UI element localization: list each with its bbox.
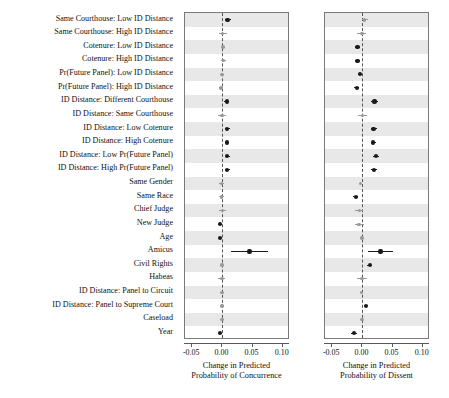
variable-label: Year [158, 328, 173, 336]
estimate-point [361, 114, 364, 117]
variable-label: Chief Judge [134, 205, 173, 213]
row-band [185, 313, 288, 327]
estimate-point [368, 263, 372, 267]
row-band [325, 313, 428, 327]
row-band [185, 68, 288, 82]
variable-label: Same Gender [129, 178, 173, 186]
estimate-point [357, 223, 360, 226]
estimate-point [221, 32, 224, 35]
estimate-point [371, 127, 375, 131]
x-axis-tick [422, 343, 423, 347]
estimate-point [220, 73, 223, 76]
row-band [185, 40, 288, 54]
row-band [185, 231, 288, 245]
variable-label: Cotenure: Low ID Distance [83, 42, 173, 50]
variable-label: ID Distance: Panel to Circuit [79, 287, 173, 295]
variable-label: ID Distance: Panel to Supreme Court [52, 301, 173, 309]
row-band [185, 149, 288, 163]
variable-label: ID Distance: Low Pr(Future Panel) [59, 151, 173, 159]
row-band [185, 177, 288, 191]
variable-label: ID Distance: Same Courthouse [73, 110, 173, 118]
estimate-point [363, 18, 366, 21]
row-band [325, 286, 428, 300]
variable-label: Same Courthouse: Low ID Distance [56, 15, 173, 23]
estimate-point [218, 331, 222, 335]
plot-panel-dissent [324, 12, 429, 339]
x-axis-tick-label: 0.10 [404, 349, 440, 357]
estimate-point [371, 140, 375, 144]
row-band [325, 204, 428, 218]
estimate-point [225, 127, 229, 131]
x-axis-line [184, 343, 289, 344]
x-axis-tick-label: 0.10 [264, 349, 300, 357]
estimate-point [355, 45, 359, 49]
estimate-point [360, 277, 363, 280]
row-band [185, 204, 288, 218]
estimate-point [355, 86, 359, 90]
x-axis-title-line2: Probability of Dissent [289, 371, 449, 381]
estimate-point [225, 99, 229, 103]
row-band [325, 258, 428, 272]
variable-label: Pr(Future Panel): High ID Distance [58, 83, 173, 91]
variable-label: Amicus [148, 246, 173, 254]
variable-label: New Judge [137, 219, 173, 227]
estimate-point [360, 32, 363, 35]
estimate-point [220, 195, 223, 198]
estimate-point [220, 291, 223, 294]
estimate-point [220, 263, 223, 266]
x-axis-title: Change in PredictedProbability of Dissen… [289, 361, 449, 381]
variable-label: Same Courthouse: High ID Distance [54, 28, 173, 36]
zero-reference-line [362, 13, 363, 338]
plot-panel-concurrence [184, 12, 289, 339]
row-band [185, 286, 288, 300]
variable-label: Caseload [143, 314, 173, 322]
variable-label: Pr(Future Panel): Low ID Distance [59, 69, 173, 77]
x-axis-title-line1: Change in Predicted [289, 361, 449, 371]
estimate-point [372, 99, 376, 103]
estimate-point [225, 18, 229, 22]
row-band [325, 13, 428, 27]
coefficient-plot-figure: Same Courthouse: Low ID DistanceSame Cou… [0, 0, 449, 398]
estimate-point [221, 45, 224, 48]
estimate-point [364, 304, 368, 308]
row-band [185, 122, 288, 136]
row-band [185, 13, 288, 27]
x-axis-tick [361, 343, 362, 347]
variable-label: ID Distance: Different Courthouse [61, 96, 173, 104]
estimate-point [225, 140, 229, 144]
estimate-point [352, 331, 356, 335]
estimate-point [220, 114, 223, 117]
x-axis-line [324, 343, 429, 344]
x-axis-tick [252, 343, 253, 347]
estimate-point [219, 86, 222, 89]
estimate-point [218, 222, 222, 226]
x-axis-tick [221, 343, 222, 347]
row-band [325, 40, 428, 54]
estimate-point [220, 318, 223, 321]
row-band [325, 177, 428, 191]
estimate-point [355, 59, 359, 63]
estimate-point [360, 318, 363, 321]
row-band [185, 95, 288, 109]
estimate-point [220, 277, 223, 280]
variable-label: Cotenure: High ID Distance [82, 55, 173, 63]
estimate-point [372, 168, 376, 172]
row-band [325, 68, 428, 82]
variable-label: Habeas [149, 273, 173, 281]
estimate-point [354, 195, 358, 199]
variable-label: Same Race [137, 192, 173, 200]
x-axis-tick [282, 343, 283, 347]
estimate-point [225, 168, 229, 172]
x-axis-tick [191, 343, 192, 347]
row-band [325, 231, 428, 245]
estimate-point [220, 304, 223, 307]
estimate-point [247, 249, 251, 253]
variable-label: Age [160, 233, 173, 241]
estimate-point [378, 249, 382, 253]
x-axis-tick [331, 343, 332, 347]
variable-label: ID Distance: High Cotenure [82, 137, 173, 145]
variable-label: ID Distance: High Pr(Future Panel) [58, 164, 173, 172]
row-band [185, 258, 288, 272]
estimate-point [360, 236, 363, 239]
variable-label: ID Distance: Low Cotenure [83, 124, 173, 132]
